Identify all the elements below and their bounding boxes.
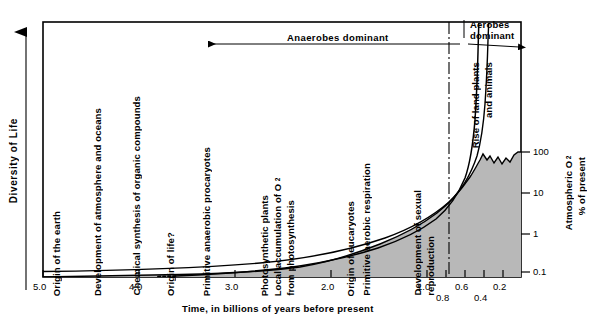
photosynthesis-o2-subscript: 2 [274, 178, 281, 182]
y-axis-right-title-text: Atmospheric O [563, 161, 574, 230]
x-tick-label-0-6: 0.6 [455, 281, 468, 292]
y-right-tick-label-100: 100 [533, 146, 549, 157]
photosynthesis-line-1: Photosynthetic plants [259, 195, 270, 296]
photosynthesis-line-2: Local accumulation of O2 [272, 180, 283, 296]
x-tick-label-1-0: 1.0 [417, 281, 430, 292]
event-label-origin-of-life: Origin of life? [165, 232, 176, 296]
x-tick-label-0-4: 0.4 [474, 292, 487, 303]
y-axis-right-o2-subscript: 2 [565, 155, 572, 159]
y-axis-right-title: Atmospheric O2 % of present [563, 157, 587, 230]
event-label-origin-of-the-earth: Origin of the earth [51, 211, 62, 296]
x-tick-label-4-0: 4.0 [129, 281, 142, 292]
photosynthesis-line-3: from photosynthesis [285, 200, 296, 296]
anaerobes-dominant-label: Anaerobes dominant [287, 32, 389, 43]
y-axis-left-title: Diversity of Life [8, 118, 19, 203]
aerobes-dominant-line2: dominant [470, 31, 514, 42]
y-axis-right-title-line1: Atmospheric O2 [563, 157, 574, 230]
evolution-atmosphere-chart: Diversity of Life Anaerobes dominant Aer… [0, 0, 598, 328]
x-tick-label-5-0: 5.0 [33, 281, 46, 292]
chart-canvas [0, 0, 598, 328]
event-label-primitive-aerobic-respiration: Primitive aerobic respiration [361, 163, 372, 296]
y-right-tick-label-0-1: 0.1 [533, 266, 546, 277]
event-label-chemical-synthesis-of-organic-compounds: Chemical synthesis of organic compounds [131, 96, 142, 296]
x-tick-label-0-2: 0.2 [493, 281, 506, 292]
y-right-tick-label-1: 1 [533, 228, 538, 239]
x-tick-label-0-8: 0.8 [436, 292, 449, 303]
aerobes-dominant-arrow [468, 44, 519, 47]
y-axis-right-title-line2: % of present [576, 157, 587, 215]
land-plants-line-1: Rise of land plants [470, 62, 481, 148]
aerobes-dominant-line1: Aerobes [470, 20, 514, 31]
x-tick-label-3-0: 3.0 [225, 281, 238, 292]
x-axis-title: Time, in billions of years before presen… [182, 303, 374, 314]
event-label-primitive-anaerobic-procaryotes: Primitive anaerobic procaryotes [201, 147, 212, 296]
event-label-development-of-atmosphere-and-oceans: Development of atmosphere and oceans [92, 108, 103, 296]
aerobes-dominant-label: Aerobes dominant [470, 20, 514, 41]
event-label-origin-of-eucaryotes: Origin of eucaryotes [345, 201, 356, 296]
photosynthesis-line-2-text: Local accumulation of O [272, 183, 283, 296]
land-plants-line-2: and animals [483, 62, 494, 118]
photosynthesis-label-block: Photosynthetic plants Local accumulation… [259, 180, 296, 296]
y-axis-right-ticks [521, 152, 530, 272]
x-tick-label-2-0: 2.0 [321, 281, 334, 292]
y-right-tick-label-10: 10 [533, 187, 544, 198]
land-plants-label-block: Rise of land plants and animals [470, 62, 494, 148]
